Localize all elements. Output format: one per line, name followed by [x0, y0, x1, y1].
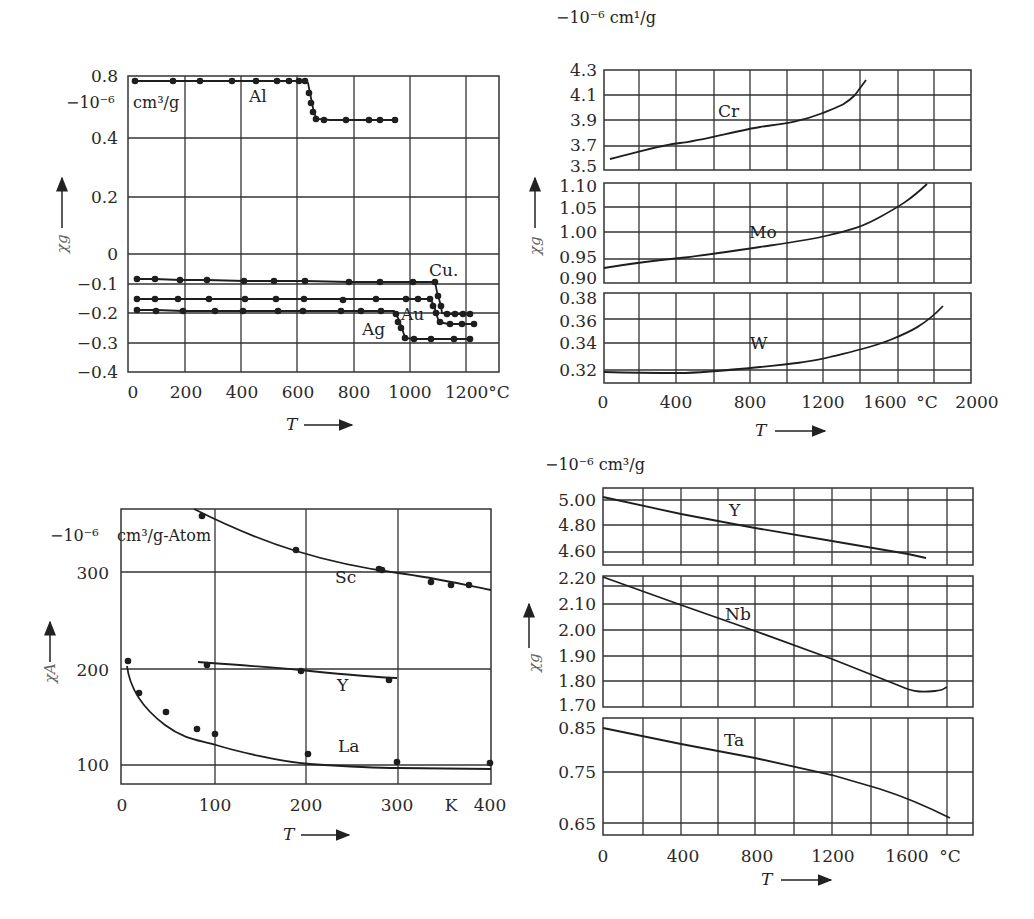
svg-text:0.90: 0.90 [559, 268, 597, 288]
svg-text:0: 0 [598, 846, 609, 866]
svg-text:3.7: 3.7 [570, 135, 597, 155]
svg-text:0.65: 0.65 [558, 814, 596, 834]
svg-text:−0.2: −0.2 [77, 303, 118, 323]
svg-text:0.2: 0.2 [91, 187, 118, 207]
panel-3-y-ticks: 300 200 100 [77, 563, 109, 775]
svg-text:5.00: 5.00 [558, 490, 596, 510]
subplot-y-y-ticks: 5.00 4.80 4.60 [558, 490, 596, 561]
label-y: Y [336, 675, 349, 695]
x-axis-label-p3: T [283, 824, 296, 844]
svg-text:100: 100 [77, 755, 109, 775]
svg-text:200: 200 [290, 795, 322, 815]
svg-text:1200: 1200 [801, 392, 844, 412]
svg-text:4.3: 4.3 [570, 60, 597, 80]
subplot-nb-grid [603, 576, 973, 707]
label-al: Al [248, 86, 267, 106]
label-nb: Nb [725, 604, 751, 624]
svg-text:1600: 1600 [863, 392, 906, 412]
svg-text:1600: 1600 [885, 846, 928, 866]
unit-prefix-p3: −10⁻⁶ [50, 526, 99, 545]
svg-text:1000: 1000 [388, 382, 431, 402]
svg-text:°C: °C [939, 846, 961, 866]
panel-3-x-ticks: 0 100 200 300 K 400 [117, 795, 507, 815]
svg-text:0.4: 0.4 [91, 128, 118, 148]
svg-text:2.00: 2.00 [558, 620, 596, 640]
subplot-nb-frame [603, 576, 973, 707]
svg-text:0.85: 0.85 [558, 718, 596, 738]
svg-text:0: 0 [128, 382, 139, 402]
svg-text:400: 400 [226, 382, 258, 402]
panel-1-chart: Al Cu. Au Ag −10⁻⁶ cm³/g 0.8 0.4 0.2 0 −… [53, 66, 510, 434]
svg-text:800: 800 [734, 392, 766, 412]
svg-text:200: 200 [170, 382, 202, 402]
svg-text:300: 300 [77, 563, 109, 583]
label-w: W [750, 333, 768, 353]
x-axis-label-p1: T [286, 414, 299, 434]
unit-label-p3: cm³/g-Atom [117, 526, 211, 545]
svg-text:1200°C: 1200°C [445, 382, 510, 402]
subplot-mo-y-ticks: 1.10 1.05 1.00 0.95 0.90 [559, 176, 597, 288]
svg-text:−0.4: −0.4 [77, 362, 118, 382]
panel-3-chart: Sc Y La −10⁻⁶ cm³/g-Atom 300 200 100 0 1… [41, 509, 506, 844]
svg-text:0.75: 0.75 [558, 762, 596, 782]
series-y-line [198, 662, 397, 678]
label-cr: Cr [718, 101, 740, 121]
panel-3-grid [121, 509, 491, 784]
series-y-high-line [603, 497, 926, 558]
svg-text:200: 200 [77, 660, 109, 680]
svg-text:1.05: 1.05 [559, 198, 597, 218]
label-y-high: Y [728, 500, 741, 520]
svg-text:2000: 2000 [955, 392, 998, 412]
svg-text:1.10: 1.10 [559, 176, 597, 196]
svg-text:0: 0 [117, 795, 128, 815]
y-axis-label-p3: χA [41, 663, 59, 684]
label-la: La [338, 736, 359, 756]
svg-text:0.95: 0.95 [559, 247, 597, 267]
subplot-y-grid [603, 488, 973, 565]
svg-text:−0.3: −0.3 [77, 333, 118, 353]
svg-text:2.10: 2.10 [558, 594, 596, 614]
label-ag: Ag [361, 319, 385, 339]
subplot-cr-grid [604, 70, 971, 170]
unit-label-p1: cm³/g [133, 93, 179, 112]
subplot-ta-frame [603, 718, 973, 835]
svg-text:1.80: 1.80 [558, 671, 596, 691]
svg-text:100: 100 [199, 795, 231, 815]
svg-text:1.90: 1.90 [558, 646, 596, 666]
subplot-cr-y-ticks: 4.3 4.1 3.9 3.7 3.5 [570, 60, 597, 176]
label-au: Au [400, 304, 424, 324]
svg-text:800: 800 [741, 846, 773, 866]
svg-text:0.34: 0.34 [559, 333, 597, 353]
svg-text:1200: 1200 [811, 846, 854, 866]
figure-canvas: Al Cu. Au Ag −10⁻⁶ cm³/g 0.8 0.4 0.2 0 −… [0, 0, 1034, 919]
svg-text:4.60: 4.60 [558, 541, 596, 561]
unit-prefix-p1: −10⁻⁶ [66, 93, 115, 112]
label-sc: Sc [335, 567, 356, 587]
svg-text:4.1: 4.1 [570, 85, 597, 105]
svg-text:300: 300 [381, 795, 413, 815]
svg-text:800: 800 [338, 382, 370, 402]
y-axis-label-p1: χg [53, 234, 71, 254]
svg-text:0.38: 0.38 [559, 288, 597, 308]
svg-text:0.36: 0.36 [559, 311, 597, 331]
svg-text:4.80: 4.80 [558, 515, 596, 535]
x-axis-label-p2: T [755, 420, 768, 440]
svg-text:−0.1: −0.1 [77, 274, 118, 294]
series-la-markers [125, 658, 494, 767]
panel-2-x-ticks: 0 400 800 1200 1600 °C 2000 [598, 392, 999, 412]
svg-text:0.32: 0.32 [559, 360, 597, 380]
svg-text:400: 400 [667, 846, 699, 866]
svg-text:0.8: 0.8 [91, 66, 118, 86]
panel-1-x-ticks: 0 200 400 600 800 1000 1200°C [128, 382, 510, 402]
panel-2-chart: −10⁻⁶ cm¹/g Cr 4.3 4.1 3.9 3.7 3.5 [526, 8, 999, 440]
subplot-mo-grid [604, 183, 971, 283]
svg-text:1.70: 1.70 [558, 695, 596, 715]
series-ta-line [603, 728, 950, 818]
panel-4-chart: −10⁻⁶ cm³/g Y 5.00 4.80 4.60 [525, 455, 973, 889]
svg-text:400: 400 [474, 795, 506, 815]
unit-label-p2: −10⁻⁶ cm¹/g [556, 8, 656, 27]
svg-text:0: 0 [107, 244, 118, 264]
y-axis-label-p4: χg [525, 653, 543, 673]
svg-text:400: 400 [660, 392, 692, 412]
svg-text:3.9: 3.9 [570, 110, 597, 130]
